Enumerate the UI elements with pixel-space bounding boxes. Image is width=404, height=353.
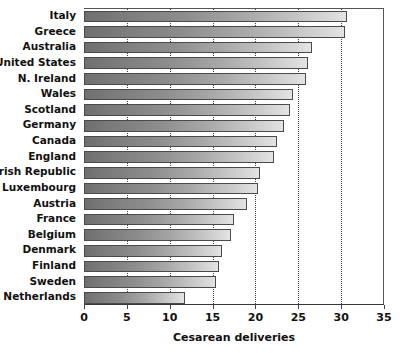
- bar-scotland: [84, 104, 290, 116]
- x-tick-mark-35: [384, 305, 385, 309]
- bar-row: [84, 181, 383, 197]
- category-label-irish-republic: Irish Republic: [0, 164, 76, 180]
- plot-area: [84, 8, 384, 305]
- bar-row: [84, 103, 383, 119]
- bar-row: [84, 259, 383, 275]
- category-label-n-ireland: N. Ireland: [18, 71, 76, 87]
- bar-row: [84, 40, 383, 56]
- x-tick-mark-10: [170, 305, 171, 309]
- bar-row: [84, 118, 383, 134]
- bar-greece: [84, 26, 345, 38]
- x-tick-mark-20: [255, 305, 256, 309]
- bar-united-states: [84, 57, 308, 69]
- bar-france: [84, 214, 234, 226]
- x-tick-mark-5: [127, 305, 128, 309]
- category-label-finland: Finland: [32, 258, 76, 274]
- bar-row: [84, 243, 383, 259]
- x-tick-label-30: 30: [333, 311, 348, 324]
- category-label-austria: Austria: [33, 196, 76, 212]
- bar-denmark: [84, 245, 222, 257]
- bar-irish-republic: [84, 167, 260, 179]
- bar-luxembourg: [84, 183, 258, 195]
- bar-austria: [84, 198, 247, 210]
- bar-series: [84, 9, 383, 304]
- bar-row: [84, 72, 383, 88]
- bar-row: [84, 165, 383, 181]
- x-tick-mark-30: [341, 305, 342, 309]
- category-label-sweden: Sweden: [30, 274, 77, 290]
- bar-finland: [84, 261, 219, 273]
- bar-row: [84, 87, 383, 103]
- x-tick-label-15: 15: [205, 311, 220, 324]
- category-label-netherlands: Netherlands: [3, 289, 76, 305]
- bar-row: [84, 275, 383, 291]
- bar-canada: [84, 136, 277, 148]
- category-label-canada: Canada: [32, 133, 76, 149]
- bar-italy: [84, 11, 347, 23]
- category-label-australia: Australia: [23, 39, 76, 55]
- bar-row: [84, 212, 383, 228]
- bar-row: [84, 228, 383, 244]
- bar-netherlands: [84, 292, 185, 304]
- category-label-germany: Germany: [23, 117, 76, 133]
- bar-belgium: [84, 229, 231, 241]
- category-axis-labels: ItalyGreeceAustraliaUnited StatesN. Irel…: [0, 8, 80, 305]
- bar-sweden: [84, 276, 216, 288]
- x-axis-title: Cesarean deliveries: [84, 331, 384, 344]
- bar-row: [84, 25, 383, 41]
- cesarean-deliveries-bar-chart: ItalyGreeceAustraliaUnited StatesN. Irel…: [0, 0, 404, 353]
- category-label-belgium: Belgium: [28, 227, 76, 243]
- category-label-scotland: Scotland: [24, 102, 76, 118]
- bar-wales: [84, 89, 293, 101]
- bar-row: [84, 290, 383, 306]
- category-label-italy: Italy: [50, 8, 76, 24]
- bar-row: [84, 134, 383, 150]
- x-tick-label-5: 5: [123, 311, 131, 324]
- category-label-denmark: Denmark: [23, 242, 77, 258]
- bar-australia: [84, 42, 312, 54]
- x-tick-mark-0: [84, 305, 85, 309]
- x-tick-mark-25: [298, 305, 299, 309]
- value-axis: 05101520253035: [84, 306, 384, 322]
- category-label-greece: Greece: [35, 24, 76, 40]
- bar-row: [84, 150, 383, 166]
- x-tick-mark-15: [213, 305, 214, 309]
- bar-row: [84, 197, 383, 213]
- bar-n-ireland: [84, 73, 306, 85]
- x-tick-label-20: 20: [248, 311, 263, 324]
- category-label-france: France: [36, 211, 76, 227]
- x-tick-label-25: 25: [291, 311, 306, 324]
- category-label-wales: Wales: [41, 86, 76, 102]
- bar-germany: [84, 120, 284, 132]
- category-label-united-states: United States: [0, 55, 76, 71]
- bar-row: [84, 9, 383, 25]
- category-label-luxembourg: Luxembourg: [2, 180, 76, 196]
- x-tick-label-10: 10: [162, 311, 177, 324]
- x-tick-label-0: 0: [80, 311, 88, 324]
- category-label-england: England: [28, 149, 76, 165]
- x-tick-label-35: 35: [376, 311, 391, 324]
- bar-row: [84, 56, 383, 72]
- bar-england: [84, 151, 274, 163]
